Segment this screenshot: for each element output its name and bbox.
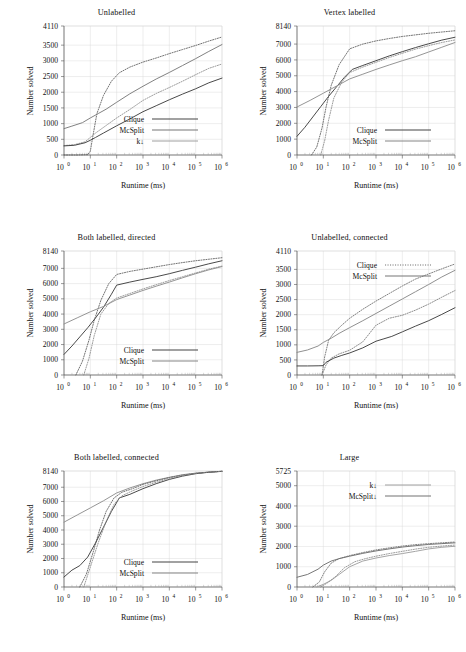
- x-tick-exponent: 1: [326, 593, 329, 599]
- x-axis-label: Runtime (ms): [297, 181, 455, 190]
- x-axis-label: Runtime (ms): [64, 613, 222, 622]
- x-tick-exponent: 5: [432, 161, 435, 167]
- y-tick-label: 2000: [276, 542, 291, 551]
- y-tick-label: 0: [287, 151, 291, 160]
- x-tick-exponent: 3: [146, 593, 149, 599]
- x-tick-exponent: 1: [93, 381, 96, 387]
- x-tick-exponent: 3: [379, 381, 382, 387]
- y-tick-label: 2000: [276, 310, 291, 319]
- x-tick-base: 10: [56, 383, 64, 392]
- y-tick-label: 6000: [276, 56, 291, 65]
- x-tick-exponent: 4: [172, 593, 175, 599]
- x-tick-base: 10: [421, 595, 429, 604]
- series-line: [84, 471, 222, 587]
- y-tick-label: 4000: [43, 310, 58, 319]
- y-axis-label: Number solved: [26, 504, 35, 553]
- panel-title: Vertex labelled: [233, 8, 466, 17]
- x-tick-base: 10: [109, 595, 117, 604]
- x-tick-exponent: 5: [199, 161, 202, 167]
- x-tick-exponent: 1: [326, 161, 329, 167]
- x-tick-base: 10: [421, 383, 429, 392]
- x-axis-label: Runtime (ms): [297, 401, 455, 410]
- panel-title: Both labelled, connected: [0, 453, 233, 462]
- y-axis-label: Number solved: [259, 66, 268, 115]
- series-line: [311, 31, 455, 155]
- x-tick-base: 10: [289, 383, 297, 392]
- y-tick-label: 3000: [43, 56, 58, 65]
- legend-label: k↓: [369, 481, 377, 490]
- y-tick-label: 4000: [43, 526, 58, 535]
- y-tick-label: 5725: [276, 467, 291, 476]
- x-tick-exponent: 3: [379, 593, 382, 599]
- x-tick-base: 10: [214, 595, 222, 604]
- x-tick-base: 10: [289, 595, 297, 604]
- x-tick-base: 10: [135, 595, 143, 604]
- x-tick-base: 10: [135, 163, 143, 172]
- y-axis-label: Number solved: [26, 288, 35, 337]
- x-tick-exponent: 2: [120, 381, 123, 387]
- x-tick-exponent: 3: [379, 161, 382, 167]
- x-tick-base: 10: [342, 383, 350, 392]
- y-axis-label: Number solved: [26, 66, 35, 115]
- y-tick-label: 3500: [276, 265, 291, 274]
- x-tick-exponent: 1: [326, 381, 329, 387]
- series-line: [321, 545, 455, 587]
- x-tick-exponent: 5: [432, 381, 435, 387]
- y-tick-label: 3500: [43, 41, 58, 50]
- x-tick-base: 10: [316, 163, 324, 172]
- y-tick-label: 3000: [43, 540, 58, 549]
- x-tick-base: 10: [447, 595, 455, 604]
- x-axis-label: Runtime (ms): [64, 401, 222, 410]
- x-tick-base: 10: [395, 163, 403, 172]
- chart-panel-large: Large01000200030004000500057251001011021…: [233, 445, 466, 652]
- x-tick-exponent: 6: [225, 161, 228, 167]
- x-tick-exponent: 4: [405, 593, 408, 599]
- series-line: [322, 291, 455, 375]
- legend-label: McSplit: [120, 569, 145, 578]
- x-tick-base: 10: [162, 163, 170, 172]
- legend-label: McSplit↓: [349, 492, 377, 501]
- y-tick-label: 1000: [276, 135, 291, 144]
- x-tick-base: 10: [342, 163, 350, 172]
- x-tick-base: 10: [162, 595, 170, 604]
- y-tick-label: 500: [280, 356, 292, 365]
- x-tick-base: 10: [188, 163, 196, 172]
- panel-title: Large: [233, 453, 466, 462]
- y-tick-label: 0: [54, 583, 58, 592]
- y-tick-label: 8140: [276, 22, 291, 31]
- x-tick-exponent: 6: [225, 593, 228, 599]
- x-axis-label: Runtime (ms): [64, 181, 222, 190]
- y-tick-label: 0: [54, 151, 58, 160]
- y-axis-label: Number solved: [259, 504, 268, 553]
- y-tick-label: 1500: [43, 104, 58, 113]
- x-tick-exponent: 6: [458, 161, 461, 167]
- x-tick-exponent: 0: [67, 593, 70, 599]
- x-tick-exponent: 2: [120, 593, 123, 599]
- y-tick-label: 1000: [43, 568, 58, 577]
- y-tick-label: 2500: [276, 295, 291, 304]
- x-tick-exponent: 1: [93, 161, 96, 167]
- x-tick-base: 10: [395, 595, 403, 604]
- x-tick-exponent: 1: [93, 593, 96, 599]
- y-tick-label: 8140: [43, 467, 58, 476]
- x-tick-base: 10: [316, 383, 324, 392]
- x-tick-base: 10: [447, 163, 455, 172]
- y-tick-label: 500: [47, 135, 59, 144]
- legend-label: McSplit: [120, 357, 145, 366]
- x-tick-base: 10: [368, 383, 376, 392]
- y-tick-label: 1000: [276, 340, 291, 349]
- x-tick-exponent: 3: [146, 381, 149, 387]
- panel-title: Unlabelled: [0, 8, 233, 17]
- x-axis-label: Runtime (ms): [297, 613, 455, 622]
- x-tick-exponent: 0: [300, 161, 303, 167]
- x-tick-exponent: 2: [353, 381, 356, 387]
- y-tick-label: 2000: [43, 340, 58, 349]
- chart-panel-vertex-labelled: Vertex labelled0100020003000400050006000…: [233, 0, 466, 225]
- series-line: [76, 258, 222, 375]
- legend-label: Clique: [124, 558, 145, 567]
- x-tick-base: 10: [421, 163, 429, 172]
- y-tick-label: 7000: [43, 483, 58, 492]
- y-tick-label: 6000: [43, 497, 58, 506]
- y-tick-label: 4110: [276, 247, 291, 256]
- x-tick-base: 10: [368, 595, 376, 604]
